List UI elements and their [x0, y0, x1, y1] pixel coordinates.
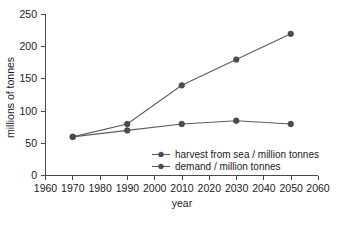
- legend-label: demand / million tonnes: [175, 161, 281, 172]
- legend-entry-harvest: harvest from sea / million tonnes: [152, 149, 319, 160]
- y-axis-ticks: [41, 15, 45, 176]
- x-tick-label: 1970: [61, 182, 85, 194]
- x-tick-label: 1960: [34, 182, 58, 194]
- x-tick-label: 2020: [198, 182, 222, 194]
- data-point: [70, 134, 76, 140]
- series-demand: [70, 118, 294, 140]
- data-series-layer: [70, 31, 294, 140]
- y-axis-title: millions of tonnes: [4, 57, 16, 138]
- x-axis-tick-labels: 1960 1970 1980 1990 2000 2010 2020 2030 …: [34, 182, 330, 194]
- legend-entry-demand: demand / million tonnes: [152, 161, 281, 172]
- y-axis-tick-labels: 250 200 150 100 50 0: [19, 8, 37, 181]
- data-point: [233, 57, 239, 63]
- x-tick-label: 2030: [225, 182, 249, 194]
- legend-marker-dot-icon: [159, 152, 164, 157]
- y-tick-label: 200: [19, 40, 37, 52]
- data-point: [288, 31, 294, 37]
- data-point: [288, 121, 294, 127]
- data-point: [179, 82, 185, 88]
- x-tick-label: 2010: [170, 182, 194, 194]
- y-tick-label: 250: [19, 8, 37, 20]
- data-point: [233, 118, 239, 124]
- x-tick-label: 2050: [280, 182, 304, 194]
- line-chart: 250 200 150 100 50 0 millions of tonnes …: [0, 0, 338, 226]
- y-tick-label: 100: [19, 105, 37, 117]
- y-tick-label: 150: [19, 72, 37, 84]
- data-point: [124, 128, 130, 134]
- x-tick-label: 2060: [306, 182, 330, 194]
- chart-plot-area: 250 200 150 100 50 0 millions of tonnes …: [0, 0, 338, 226]
- y-tick-label: 50: [25, 137, 37, 149]
- data-point: [179, 121, 185, 127]
- x-tick-label: 1990: [116, 182, 140, 194]
- x-tick-label: 1980: [88, 182, 112, 194]
- x-axis-ticks: [46, 176, 319, 180]
- chart-legend: harvest from sea / million tonnes demand…: [152, 149, 319, 172]
- data-point: [124, 121, 130, 127]
- x-tick-label: 2000: [143, 182, 167, 194]
- legend-label: harvest from sea / million tonnes: [175, 149, 319, 160]
- x-tick-label: 2040: [252, 182, 276, 194]
- x-axis-title: year: [172, 197, 193, 209]
- y-tick-label: 0: [31, 169, 37, 181]
- legend-marker-dot-icon: [159, 164, 164, 169]
